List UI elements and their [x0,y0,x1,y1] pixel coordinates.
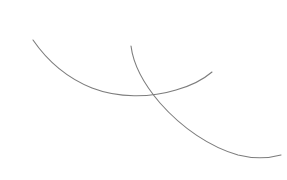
drawing-canvas [0,0,287,180]
curve-svg [0,0,287,180]
canvas-background [0,0,287,180]
